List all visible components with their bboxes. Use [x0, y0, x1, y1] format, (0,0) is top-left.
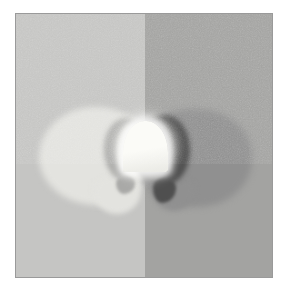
photograph-border — [15, 13, 273, 278]
photograph-frame — [0, 0, 289, 296]
photograph-canvas — [16, 14, 272, 277]
